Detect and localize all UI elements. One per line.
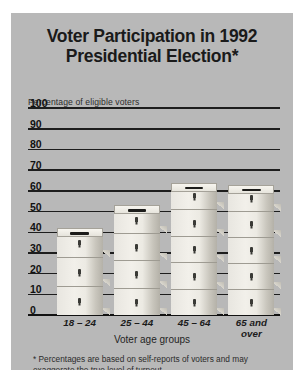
ballot-box-icon [228,237,274,263]
y-axis-tick-70: 70 [30,160,42,171]
ballot-box-stack [228,185,274,315]
ballot-box-icon [114,288,160,315]
gridline-80 [28,149,280,151]
ballot-box-side-face [102,250,110,257]
gridline-70 [28,169,280,171]
title-line-2: Presidential Election* [11,46,293,66]
gridline-90 [28,128,280,130]
chart-figure: Voter Participation in 1992Presidential … [11,13,293,370]
chart-title: Voter Participation in 1992Presidential … [11,26,293,66]
ballot-slot-icon [242,189,260,192]
ballot-box-side-face [102,279,110,286]
x-axis-label-line: 45 – 64 [164,317,224,328]
y-axis-tick-100: 100 [30,98,48,109]
ballot-box-side-face [216,255,224,262]
y-axis-tick-30: 30 [30,243,42,254]
ballot-slot-icon [185,187,203,190]
x-axis-label-line: 65 and [221,317,281,328]
ballot-box-side-face [159,308,167,315]
y-axis-tick-80: 80 [30,139,42,150]
chart-footnote: * Percentages are based on self-reports … [33,354,269,370]
ballot-box-icon [57,257,103,286]
plot-area: 0102030405060708090100 [28,108,280,315]
ballot-box-side-face [273,230,281,237]
ballot-box-icon [228,263,274,289]
ballot-box-icon [171,262,217,289]
ballot-box-icon [114,260,160,287]
y-axis-tick-20: 20 [30,264,42,275]
ballot-box-icon [171,289,217,316]
bar-3 [228,185,274,315]
y-axis-tick-10: 10 [30,284,42,295]
gridline-100 [28,107,280,109]
y-axis-tick-50: 50 [30,202,42,213]
bar-0 [57,228,103,315]
ballot-box-side-face [273,204,281,211]
y-axis-tick-0: 0 [30,305,36,316]
ballot-box-icon [228,211,274,237]
ballot-box-icon [171,209,217,236]
ballot-box-side-face [273,308,281,315]
ballot-box-stack [57,228,103,315]
ballot-box-icon [114,233,160,260]
ballot-box-stack [114,205,160,315]
bar-1 [114,205,160,315]
y-axis-tick-90: 90 [30,119,42,130]
ballot-box-lid [57,228,103,237]
x-axis-label-line: 18 – 24 [50,317,110,328]
x-axis-label-2: 45 – 64 [164,317,224,328]
ballot-box-lid [171,183,217,192]
ballot-box-side-face [273,256,281,263]
ballot-box-side-face [216,308,224,315]
ballot-box-side-face [102,308,110,315]
ballot-box-side-face [216,282,224,289]
ballot-box-side-face [216,202,224,209]
y-axis-tick-40: 40 [30,222,42,233]
ballot-box-side-face [159,253,167,260]
x-axis-label-0: 18 – 24 [50,317,110,328]
bar-2 [171,183,217,315]
x-axis-label-1: 25 – 44 [107,317,167,328]
ballot-slot-icon [70,232,88,235]
ballot-box-side-face [159,281,167,288]
ballot-box-lid [114,205,160,214]
ballot-box-side-face [159,226,167,233]
ballot-box-icon [171,236,217,263]
ballot-box-icon [228,289,274,315]
ballot-slot-icon [128,209,146,212]
ballot-box-stack [171,183,217,315]
x-axis-label-line: 25 – 44 [107,317,167,328]
ballot-box-lid [228,185,274,194]
ballot-box-side-face [216,229,224,236]
ballot-box-icon [57,286,103,315]
title-line-1: Voter Participation in 1992 [11,26,293,46]
y-axis-tick-60: 60 [30,181,42,192]
x-axis-title: Voter age groups [11,334,293,345]
ballot-box-side-face [273,282,281,289]
